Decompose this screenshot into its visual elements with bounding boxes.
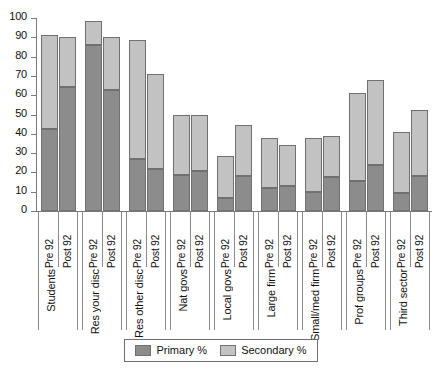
bar-segment-primary[interactable] (367, 165, 384, 211)
bar-segment-primary[interactable] (147, 169, 164, 211)
bar-segment-primary[interactable] (41, 129, 58, 211)
bars-layer (36, 18, 432, 211)
bar-segment-secondary[interactable] (103, 37, 120, 90)
bar[interactable] (217, 156, 234, 211)
bar-segment-secondary[interactable] (191, 115, 208, 171)
series-label-post-92: Post 92 (323, 212, 340, 268)
category-separator (121, 212, 122, 330)
bar-segment-secondary[interactable] (235, 125, 252, 176)
bar-segment-primary[interactable] (305, 192, 322, 211)
bar-segment-secondary[interactable] (85, 21, 102, 45)
category-separator (297, 212, 298, 330)
bar[interactable] (367, 80, 384, 211)
category-separator (209, 212, 210, 330)
series-label-post-92: Post 92 (411, 212, 428, 268)
series-label-pre-92: Pre 92 (393, 212, 410, 268)
category-label: Third sector (397, 269, 410, 326)
y-axis-tick-label: 70 (15, 69, 27, 80)
bar[interactable] (323, 136, 340, 211)
bar-segment-primary[interactable] (279, 186, 296, 211)
legend-label-secondary: Secondary % (241, 345, 306, 356)
bar-segment-primary[interactable] (393, 193, 410, 211)
category-separator (385, 212, 386, 330)
y-axis-tick-label: 10 (15, 185, 27, 196)
series-separator (410, 212, 411, 267)
bar-segment-secondary[interactable] (411, 110, 428, 177)
bar-group (217, 18, 252, 211)
bar-segment-primary[interactable] (349, 181, 366, 211)
category-separator (390, 212, 391, 330)
legend-item-secondary: Secondary % (220, 345, 306, 356)
bar-segment-secondary[interactable] (323, 136, 340, 177)
category-label: Large firm (265, 269, 278, 318)
bar-segment-primary[interactable] (235, 176, 252, 211)
category-label: Small/med firm (309, 269, 322, 341)
bar[interactable] (411, 110, 428, 211)
series-label-pre-92: Pre 92 (349, 212, 366, 268)
category-label: Local govs (221, 269, 234, 321)
bar[interactable] (393, 132, 410, 211)
y-axis-tick-label: 100 (9, 11, 27, 22)
series-separator (146, 212, 147, 267)
bar-segment-secondary[interactable] (59, 37, 76, 87)
bar-segment-primary[interactable] (129, 159, 146, 211)
bar-segment-secondary[interactable] (393, 132, 410, 193)
bar-segment-primary[interactable] (323, 177, 340, 211)
y-axis-tick-label: 0 (21, 204, 27, 215)
bar-segment-secondary[interactable] (279, 145, 296, 186)
bar-segment-secondary[interactable] (367, 80, 384, 165)
bar-segment-primary[interactable] (261, 188, 278, 211)
legend-swatch-secondary (220, 345, 236, 356)
bar-segment-primary[interactable] (411, 176, 428, 211)
bar-segment-secondary[interactable] (261, 138, 278, 188)
bar-group (305, 18, 340, 211)
category-separator (214, 212, 215, 330)
category-separator (258, 212, 259, 330)
bar-segment-primary[interactable] (217, 198, 234, 212)
bar[interactable] (103, 37, 120, 211)
bar-segment-secondary[interactable] (217, 156, 234, 197)
bar[interactable] (41, 35, 58, 211)
bar-segment-secondary[interactable] (349, 93, 366, 181)
chart-legend: Primary % Secondary % (124, 339, 318, 362)
bar[interactable] (305, 138, 322, 211)
bar-segment-primary[interactable] (85, 45, 102, 211)
category-label: Prof groups (353, 269, 366, 325)
category-label: Nat govs (177, 269, 190, 312)
bar[interactable] (191, 115, 208, 211)
y-axis-tick-label: 50 (15, 108, 27, 119)
bar-segment-primary[interactable] (103, 90, 120, 211)
category-separator (38, 212, 39, 330)
bar[interactable] (173, 115, 190, 212)
series-label-pre-92: Pre 92 (217, 212, 234, 268)
y-axis-tick-mark (31, 211, 36, 212)
bar[interactable] (59, 37, 76, 211)
bar-segment-primary[interactable] (191, 171, 208, 211)
bar[interactable] (129, 40, 146, 211)
bar-segment-secondary[interactable] (129, 40, 146, 159)
stacked-bar-chart: 0102030405060708090100 Pre 92Post 92Stud… (0, 0, 438, 378)
category-label: Res other disc (133, 269, 146, 338)
bar-segment-primary[interactable] (173, 175, 190, 211)
bar[interactable] (85, 21, 102, 211)
bar-segment-primary[interactable] (59, 87, 76, 211)
series-separator (366, 212, 367, 267)
series-label-pre-92: Pre 92 (173, 212, 190, 268)
bar-group (173, 18, 208, 211)
bar[interactable] (261, 138, 278, 211)
bar-segment-secondary[interactable] (41, 35, 58, 129)
legend-label-primary: Primary % (156, 345, 207, 356)
bar-segment-secondary[interactable] (305, 138, 322, 192)
bar-group (393, 18, 428, 211)
bar[interactable] (349, 93, 366, 211)
category-separator (302, 212, 303, 330)
bar[interactable] (279, 145, 296, 211)
y-axis-tick-label: 20 (15, 165, 27, 176)
series-label-pre-92: Pre 92 (261, 212, 278, 268)
bar-segment-secondary[interactable] (147, 74, 164, 169)
bar[interactable] (235, 125, 252, 211)
category-separator (346, 212, 347, 330)
bar-segment-secondary[interactable] (173, 115, 190, 176)
bar[interactable] (147, 74, 164, 211)
series-separator (58, 212, 59, 267)
